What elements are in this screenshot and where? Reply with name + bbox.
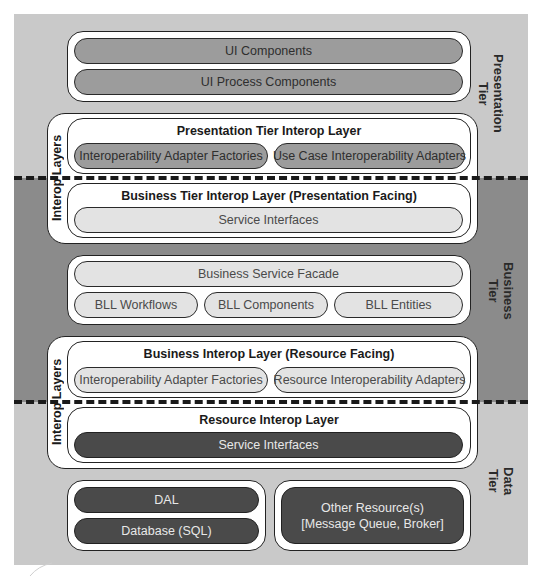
- bll-workflows-pill: BLL Workflows: [74, 292, 198, 318]
- business-interop-layer-resource-facing: Business Interop Layer (Resource Facing)…: [67, 341, 471, 398]
- service-interfaces-label-2: Service Interfaces: [218, 438, 318, 452]
- service-interfaces-pill-2: Service Interfaces: [74, 432, 463, 458]
- pres-interop-adapter-factories-pill: Interoperability Adapter Factories: [74, 143, 268, 169]
- business-tier-label-line2: Tier: [486, 279, 501, 303]
- resource-interop-layer: Resource Interop Layer Service Interface…: [67, 407, 471, 463]
- business-tier-label-line1: Business: [501, 262, 516, 320]
- data-tier-label: Data Tier: [486, 467, 516, 495]
- presentation-tier-interop-title: Presentation Tier Interop Layer: [68, 124, 470, 138]
- service-interfaces-pill-1: Service Interfaces: [74, 207, 463, 233]
- bll-components-label: BLL Components: [218, 298, 314, 312]
- res-interop-adapter-factories-label: Interoperability Adapter Factories: [79, 373, 262, 387]
- dal-pill: DAL: [74, 487, 259, 513]
- presentation-tier-label: Presentation Tier: [476, 54, 506, 133]
- service-interfaces-label-1: Service Interfaces: [218, 213, 318, 227]
- other-resources-label-line2: [Message Queue, Broker]: [301, 516, 443, 532]
- dal-label: DAL: [154, 493, 178, 507]
- data-tier-label-line2: Tier: [486, 469, 501, 493]
- business-tier-label: Business Tier: [486, 262, 516, 320]
- ui-components-label: UI Components: [225, 44, 312, 58]
- resource-interop-adapters-label: Resource Interoperability Adapters: [274, 373, 466, 387]
- other-resources-pill: Other Resource(s) [Message Queue, Broker…: [281, 487, 464, 544]
- database-sql-pill: Database (SQL): [74, 518, 259, 544]
- data-tier-label-line1: Data: [501, 467, 516, 495]
- business-interop-resource-title: Business Interop Layer (Resource Facing): [68, 347, 470, 361]
- database-sql-label: Database (SQL): [121, 524, 211, 538]
- other-resources-box: Other Resource(s) [Message Queue, Broker…: [274, 480, 471, 551]
- resource-interop-title: Resource Interop Layer: [68, 413, 470, 427]
- bll-components-pill: BLL Components: [204, 292, 328, 318]
- dal-database-box: DAL Database (SQL): [67, 480, 266, 551]
- presentation-tier-interop-layer: Presentation Tier Interop Layer Interope…: [67, 118, 471, 174]
- presentation-tier-label-line2: Tier: [476, 82, 491, 106]
- business-service-facade-pill: Business Service Facade: [74, 261, 463, 287]
- ui-components-pill: UI Components: [74, 38, 463, 64]
- business-tier-interop-layer-presentation-facing: Business Tier Interop Layer (Presentatio…: [67, 183, 471, 238]
- presentation-business-boundary: [14, 176, 528, 180]
- res-interop-adapter-factories-pill: Interoperability Adapter Factories: [74, 367, 268, 393]
- ui-process-components-pill: UI Process Components: [74, 69, 463, 95]
- business-tier-interop-title: Business Tier Interop Layer (Presentatio…: [68, 189, 470, 203]
- pres-interop-adapter-factories-label: Interoperability Adapter Factories: [79, 149, 262, 163]
- presentation-components-box: UI Components UI Process Components: [67, 31, 471, 102]
- business-service-facade-label: Business Service Facade: [198, 267, 339, 281]
- other-resources-label-line1: Other Resource(s): [321, 500, 424, 516]
- presentation-tier-label-line1: Presentation: [491, 54, 506, 133]
- bll-entities-pill: BLL Entities: [334, 292, 463, 318]
- bll-workflows-label: BLL Workflows: [95, 298, 178, 312]
- bll-entities-label: BLL Entities: [365, 298, 431, 312]
- resource-interop-adapters-pill: Resource Interoperability Adapters: [274, 367, 465, 393]
- business-data-boundary: [14, 400, 528, 404]
- use-case-interop-adapters-label: Use Case Interoperability Adapters: [273, 149, 466, 163]
- artifact-curve-icon: [28, 562, 58, 577]
- ui-process-components-label: UI Process Components: [201, 75, 336, 89]
- use-case-interop-adapters-pill: Use Case Interoperability Adapters: [274, 143, 465, 169]
- business-logic-layer-box: Business Service Facade BLL Workflows BL…: [67, 255, 471, 325]
